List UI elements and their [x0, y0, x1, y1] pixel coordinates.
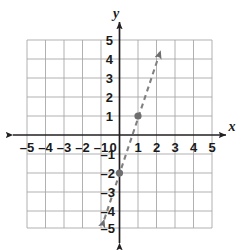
y-axis-label: y [111, 6, 120, 21]
coordinate-plane-figure: –5 –4 –3 –2 –1 0 1 2 3 4 5 5 4 3 2 1 –1 … [0, 0, 241, 250]
figure-background [0, 0, 241, 250]
plotted-point-one-one [134, 112, 141, 119]
x-tick-label-5: 5 [208, 140, 215, 155]
x-tick-label-2: 2 [153, 140, 160, 155]
y-tick-label-5: 5 [106, 33, 113, 48]
y-tick-label-neg-3: –3 [101, 185, 115, 200]
x-tick-label-1: 1 [134, 140, 141, 155]
x-tick-label-neg-5: –5 [20, 140, 34, 155]
plotted-point-y-intercept [116, 169, 123, 176]
y-tick-label-neg-1: –1 [101, 147, 115, 162]
x-tick-label-3: 3 [171, 140, 178, 155]
y-tick-label-4: 4 [106, 52, 114, 67]
x-axis-label: x [228, 119, 236, 134]
y-tick-label-neg-4: –4 [101, 204, 116, 219]
y-tick-label-2: 2 [106, 90, 113, 105]
y-tick-label-3: 3 [106, 71, 113, 86]
y-tick-label-neg-5: –5 [101, 221, 115, 236]
y-tick-label-neg-2: –2 [101, 166, 115, 181]
x-tick-label-neg-3: –3 [57, 140, 71, 155]
x-tick-label-neg-2: –2 [75, 140, 89, 155]
x-tick-label-neg-4: –4 [38, 140, 53, 155]
coordinate-plane-svg: –5 –4 –3 –2 –1 0 1 2 3 4 5 5 4 3 2 1 –1 … [0, 0, 241, 250]
x-tick-label-4: 4 [190, 140, 198, 155]
y-tick-label-1: 1 [106, 109, 113, 124]
